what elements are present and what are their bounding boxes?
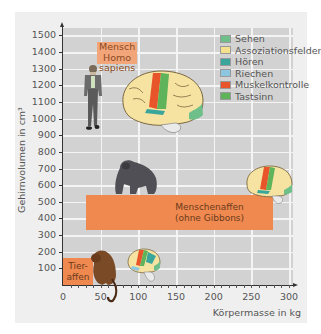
legend-label: Hören bbox=[235, 56, 264, 67]
x-tick-mark bbox=[78, 285, 79, 288]
y-tick-label: 600 bbox=[38, 180, 56, 190]
x-tick-mark bbox=[214, 285, 215, 288]
legend-label: Tastsinn bbox=[235, 91, 273, 102]
legend-label: Assoziationsfelder bbox=[235, 45, 321, 56]
legend-item: Tastsinn bbox=[220, 91, 321, 103]
x-tick-mark bbox=[206, 285, 207, 288]
group-label-line: (ohne Gibbons) bbox=[115, 213, 244, 224]
legend: SehenAssoziationsfelderHörenRiechenMuske… bbox=[220, 33, 321, 102]
y-axis-arrow-icon bbox=[60, 22, 64, 27]
y-tick-label: 1000 bbox=[32, 114, 56, 124]
legend-swatch-icon bbox=[220, 46, 231, 54]
y-tick-mark bbox=[59, 252, 63, 253]
y-axis bbox=[62, 25, 63, 286]
y-tick-mark bbox=[59, 69, 63, 70]
y-tick-mark bbox=[59, 119, 63, 120]
y-tick-label: 100 bbox=[38, 263, 56, 273]
y-tick-mark bbox=[59, 185, 63, 186]
y-tick-mark bbox=[59, 169, 63, 170]
vertical-gridline bbox=[176, 28, 178, 285]
x-tick-mark bbox=[123, 285, 124, 288]
x-tick-mark bbox=[229, 285, 230, 288]
y-tick-mark bbox=[59, 235, 63, 236]
group-label-line: Menschenaffen bbox=[115, 202, 244, 213]
x-tick-mark bbox=[221, 285, 222, 288]
x-tick-mark bbox=[184, 285, 185, 288]
y-tick-mark bbox=[59, 85, 63, 86]
y-tick-label: 1500 bbox=[32, 30, 56, 40]
x-axis-title: Körpermasse in kg bbox=[213, 307, 301, 318]
y-tick-mark bbox=[59, 202, 63, 203]
legend-swatch-icon bbox=[220, 58, 231, 66]
y-tick-label: 400 bbox=[38, 213, 56, 223]
x-tick-mark bbox=[191, 285, 192, 288]
y-tick-label: 800 bbox=[38, 147, 56, 157]
x-tick-label: 0 bbox=[60, 292, 66, 302]
y-tick-label: 200 bbox=[38, 247, 56, 257]
x-axis-arrow-icon bbox=[293, 283, 298, 287]
x-tick-label: 200 bbox=[205, 292, 223, 302]
group-label-line: Tier- bbox=[68, 261, 88, 272]
y-tick-mark bbox=[59, 152, 63, 153]
y-axis-title: Gehirnvolumen in cm³ bbox=[16, 107, 27, 213]
legend-item: Sehen bbox=[220, 33, 321, 45]
vertical-gridline bbox=[138, 28, 140, 285]
horizontal-gridline bbox=[63, 152, 293, 154]
y-tick-label: 500 bbox=[38, 197, 56, 207]
y-tick-label: 1200 bbox=[32, 80, 56, 90]
x-tick-mark bbox=[199, 285, 200, 288]
legend-label: Riechen bbox=[235, 68, 273, 79]
y-tick-mark bbox=[59, 35, 63, 36]
x-tick-mark bbox=[289, 285, 290, 288]
monkey-figure-icon bbox=[88, 249, 120, 303]
monkey-brain-icon bbox=[126, 248, 162, 288]
legend-item: Muskelkontrolle bbox=[220, 79, 321, 91]
y-tick-label: 300 bbox=[38, 230, 56, 240]
x-tick-mark bbox=[251, 285, 252, 288]
y-tick-mark bbox=[59, 52, 63, 53]
x-tick-label: 150 bbox=[167, 292, 185, 302]
y-tick-mark bbox=[59, 218, 63, 219]
y-tick-label: 1400 bbox=[32, 47, 56, 57]
y-tick-label: 900 bbox=[38, 130, 56, 140]
x-tick-mark bbox=[176, 285, 177, 288]
group-label-line: Mensch bbox=[99, 42, 135, 53]
y-tick-mark bbox=[59, 102, 63, 103]
legend-label: Muskelkontrolle bbox=[235, 79, 309, 90]
x-tick-label: 250 bbox=[242, 292, 260, 302]
legend-item: Hören bbox=[220, 56, 321, 68]
ape-brain-icon bbox=[244, 164, 294, 208]
human-brain-icon bbox=[117, 69, 207, 139]
horizontal-gridline bbox=[63, 235, 293, 237]
x-tick-mark bbox=[86, 285, 87, 288]
x-tick-mark bbox=[236, 285, 237, 288]
x-tick-mark bbox=[71, 285, 72, 288]
y-tick-mark bbox=[59, 135, 63, 136]
x-tick-mark bbox=[259, 285, 260, 288]
legend-swatch-icon bbox=[220, 35, 231, 43]
legend-item: Riechen bbox=[220, 68, 321, 80]
y-tick-label: 700 bbox=[38, 164, 56, 174]
y-tick-label: 1100 bbox=[32, 97, 56, 107]
legend-item: Assoziationsfelder bbox=[220, 45, 321, 57]
group-label-line: affen bbox=[67, 272, 90, 283]
x-tick-mark bbox=[266, 285, 267, 288]
x-tick-mark bbox=[244, 285, 245, 288]
gorilla-figure-icon bbox=[112, 158, 160, 196]
human-figure-icon bbox=[80, 64, 106, 136]
x-tick-mark bbox=[274, 285, 275, 288]
legend-swatch-icon bbox=[220, 69, 231, 77]
x-tick-label: 300 bbox=[280, 292, 298, 302]
legend-label: Sehen bbox=[235, 33, 265, 44]
x-tick-mark bbox=[168, 285, 169, 288]
vertical-gridline bbox=[214, 28, 216, 285]
y-tick-label: 1300 bbox=[32, 64, 56, 74]
x-tick-label: 100 bbox=[129, 292, 147, 302]
x-tick-mark bbox=[281, 285, 282, 288]
legend-swatch-icon bbox=[220, 81, 231, 89]
legend-swatch-icon bbox=[220, 92, 231, 100]
